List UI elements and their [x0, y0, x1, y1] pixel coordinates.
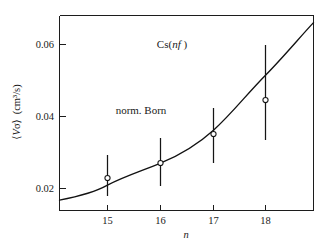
- x-axis-ticks: [108, 205, 266, 211]
- chart-canvas: 0.06 0.04 0.02 15 16 17 18 n ⟨Vσ⟩(cm³/s): [0, 0, 330, 245]
- data-point-n15: [105, 155, 110, 196]
- y-tick-label-0.06: 0.06: [36, 39, 54, 50]
- data-point-n16: [158, 138, 163, 186]
- x-tick-label-17: 17: [208, 215, 219, 226]
- x-tick-label-15: 15: [102, 215, 113, 226]
- svg-text:⟨Vσ⟩(cm³/s): ⟨Vσ⟩(cm³/s): [11, 84, 23, 140]
- annotation-species-label: Cs(nf ): [157, 38, 188, 51]
- species-label-suffix: ): [181, 38, 188, 51]
- marker-n18: [263, 97, 268, 102]
- y-tick-labels: 0.06 0.04 0.02: [36, 39, 55, 194]
- marker-n16: [158, 160, 163, 165]
- data-point-n18: [263, 45, 268, 140]
- x-axis-title: n: [183, 229, 188, 240]
- species-label-prefix: Cs(: [157, 38, 173, 51]
- y-axis-ticks: [60, 45, 66, 189]
- annotation-model-label: norm. Born: [116, 104, 167, 116]
- y-axis-units: (cm³/s): [11, 84, 23, 114]
- y-axis-title: ⟨Vσ⟩(cm³/s): [11, 84, 23, 140]
- data-series-measurement: [105, 45, 268, 196]
- data-point-n17: [211, 108, 216, 163]
- y-tick-label-0.02: 0.02: [36, 183, 54, 194]
- marker-n15: [105, 175, 110, 180]
- marker-n17: [211, 131, 216, 136]
- figure-container: 0.06 0.04 0.02 15 16 17 18 n ⟨Vσ⟩(cm³/s): [0, 0, 330, 245]
- y-tick-label-0.04: 0.04: [36, 111, 55, 122]
- x-tick-label-18: 18: [260, 215, 271, 226]
- x-tick-label-16: 16: [155, 215, 166, 226]
- x-tick-labels: 15 16 17 18: [102, 215, 271, 226]
- y-axis-bracket-close: ⟩: [11, 119, 22, 123]
